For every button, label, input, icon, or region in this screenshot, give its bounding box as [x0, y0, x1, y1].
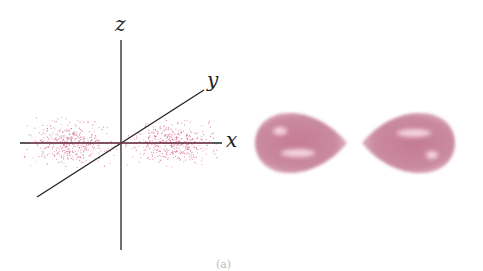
- left-lobe: [255, 113, 347, 173]
- y-axis-label: y: [207, 70, 218, 90]
- boundary-surface-lobes: [255, 113, 455, 173]
- x-axis-label: x: [226, 130, 237, 150]
- right-lobe: [362, 113, 455, 173]
- z-axis-label: z: [115, 14, 126, 34]
- figure-caption: (a): [216, 258, 231, 271]
